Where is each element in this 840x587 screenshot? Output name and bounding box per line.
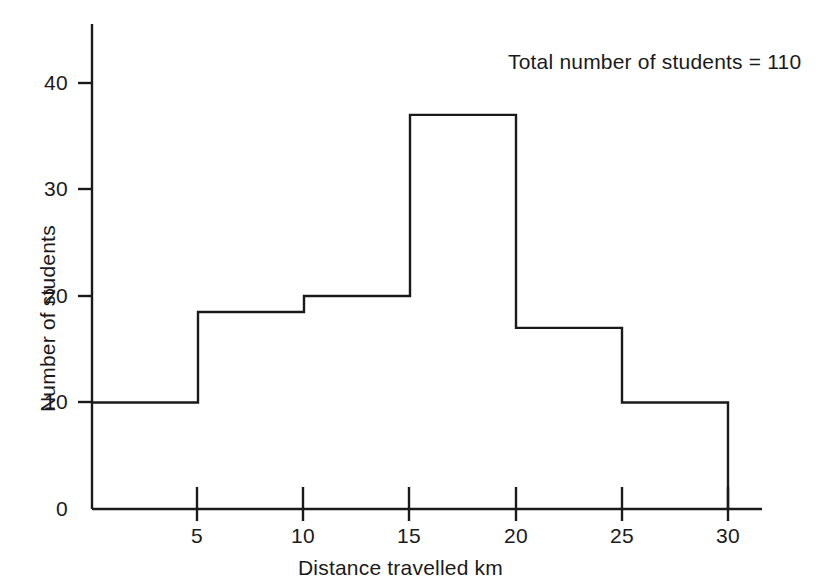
x-tick-label-25: 25	[592, 524, 652, 548]
plot-area	[0, 0, 840, 587]
y-tick-label-30: 30	[10, 177, 68, 201]
y-tick-label-0: 0	[10, 497, 68, 521]
total-students-annotation: Total number of students = 110	[508, 50, 801, 74]
x-axis-title: Distance travelled km	[298, 556, 503, 580]
y-tick-label-40: 40	[10, 71, 68, 95]
x-tick-label-30: 30	[698, 524, 758, 548]
x-tick-label-10: 10	[273, 524, 333, 548]
histogram-outline	[92, 115, 728, 509]
y-axis-title: Number of students	[36, 225, 60, 412]
histogram-figure: 40 30 20 10 0 5 10 15 20 25 30 Distance …	[0, 0, 840, 587]
x-tick-label-5: 5	[167, 524, 227, 548]
x-tick-label-15: 15	[379, 524, 439, 548]
x-tick-label-20: 20	[486, 524, 546, 548]
